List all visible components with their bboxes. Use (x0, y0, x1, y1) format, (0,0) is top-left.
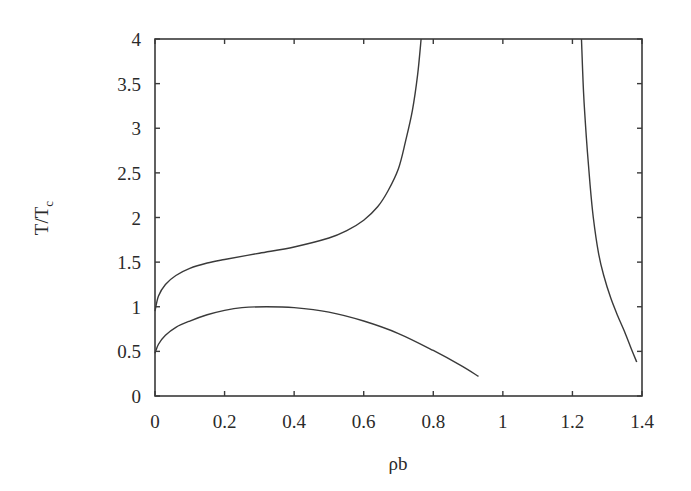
ticks (155, 39, 642, 396)
x-tick-label: 0.4 (282, 411, 306, 432)
y-tick-label: 0.5 (117, 341, 141, 362)
x-tick-label: 0.6 (352, 411, 376, 432)
chart: 00.20.40.60.811.21.4 00.511.522.533.54 ρ… (0, 0, 691, 491)
y-tick-label: 3 (132, 118, 142, 139)
x-tick-label: 1 (498, 411, 508, 432)
x-tick-label: 1.2 (561, 411, 585, 432)
x-tick-labels: 00.20.40.60.811.21.4 (150, 411, 654, 432)
curve-upper-left-branch (155, 39, 421, 311)
y-tick-label: 1 (132, 297, 142, 318)
x-tick-label: 1.4 (630, 411, 654, 432)
x-tick-label: 0 (150, 411, 160, 432)
y-tick-label: 4 (132, 29, 142, 50)
curve-lower-branch (155, 307, 479, 377)
y-tick-label: 3.5 (117, 74, 141, 95)
curve-right-branch (581, 39, 636, 362)
x-axis-label: ρb (389, 453, 408, 474)
curves (155, 39, 637, 376)
y-axis-label-main: T/T (31, 206, 52, 235)
y-tick-label: 2.5 (117, 163, 141, 184)
y-axis-label: T/Tc (31, 201, 56, 236)
y-tick-labels: 00.511.522.533.54 (117, 29, 141, 407)
y-axis-label-subscript: c (41, 201, 56, 207)
y-tick-label: 1.5 (117, 252, 141, 273)
plot-frame (155, 39, 642, 396)
x-tick-label: 0.8 (421, 411, 445, 432)
y-tick-label: 0 (132, 386, 142, 407)
y-tick-label: 2 (132, 208, 142, 229)
x-tick-label: 0.2 (213, 411, 237, 432)
